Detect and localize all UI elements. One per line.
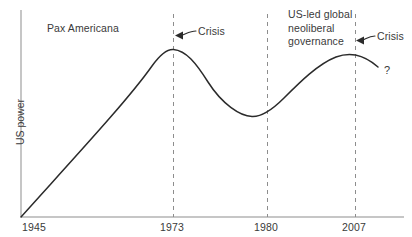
annotation-neoliberal-line-2: neoliberal bbox=[288, 22, 335, 34]
y-axis-label: US power bbox=[14, 99, 26, 145]
x-tick-label-2007: 2007 bbox=[342, 221, 366, 233]
crisis-1973-arrow-icon bbox=[175, 32, 183, 40]
x-tick-label-1973: 1973 bbox=[160, 221, 184, 233]
annotation-neoliberal-governance: US-led global neoliberal governance bbox=[288, 8, 372, 49]
annotation-neoliberal-line-3: governance bbox=[288, 35, 344, 47]
x-tick-label-1980: 1980 bbox=[254, 221, 278, 233]
annotation-crisis-2007: Crisis bbox=[377, 30, 404, 42]
chart-container: US power 1945 1973 1980 2007 Pax America… bbox=[0, 0, 412, 237]
annotation-question-mark: ? bbox=[384, 64, 390, 76]
x-tick-label-1945: 1945 bbox=[22, 221, 46, 233]
crisis-1973-leader-line bbox=[182, 31, 197, 36]
us-power-curve bbox=[21, 49, 378, 217]
annotation-crisis-1973: Crisis bbox=[198, 25, 225, 37]
annotation-pax-americana: Pax Americana bbox=[47, 22, 119, 34]
annotation-neoliberal-line-1: US-led global bbox=[288, 8, 352, 20]
